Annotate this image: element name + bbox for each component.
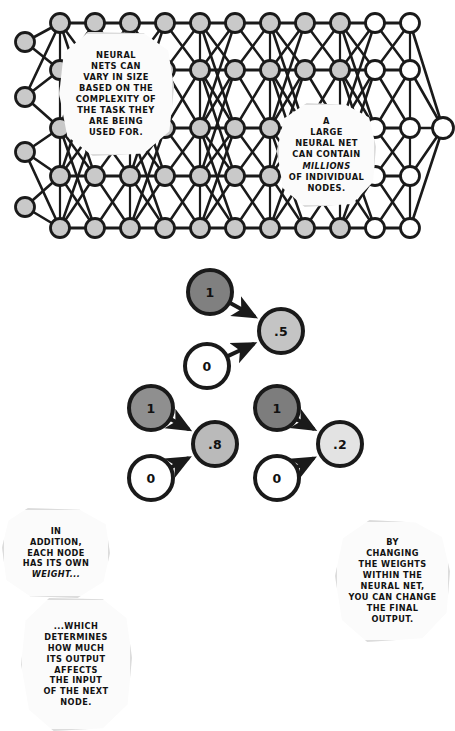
callout-millions-of-nodes: ALARGENEURAL NETCAN CONTAINMILLIONSOF IN… [277, 103, 376, 207]
callout-network-size-text: NEURALNETS CANVARY IN SIZEBASED ON THECO… [73, 50, 159, 139]
weight-arrow [230, 303, 254, 316]
network-node [51, 167, 70, 186]
network-node [296, 219, 315, 238]
network-node [261, 61, 280, 80]
callout-each-node-weight-text: INADDITION,EACH NODEHAS ITS OWNWEIGHT... [20, 526, 93, 581]
network-node [226, 61, 245, 80]
network-node [191, 219, 210, 238]
network-node [86, 14, 105, 33]
network-node [86, 219, 105, 238]
network-node [401, 61, 420, 80]
weight-node-input [129, 456, 173, 500]
weight-node-input [185, 344, 229, 388]
weight-arrow [297, 459, 312, 467]
network-node [366, 61, 385, 80]
network-node [401, 219, 420, 238]
network-node [296, 14, 315, 33]
network-node [156, 14, 175, 33]
network-node [433, 118, 454, 139]
weight-node-output [259, 309, 303, 353]
network-node [261, 14, 280, 33]
weight-node-input [129, 386, 173, 430]
callout-millions-of-nodes-text: ALARGENEURAL NETCAN CONTAINMILLIONSOF IN… [286, 116, 367, 194]
callout-which-determines: ...WHICHDETERMINESHOW MUCHITS OUTPUTAFFE… [20, 598, 132, 731]
network-node [331, 14, 350, 33]
network-node [16, 198, 35, 217]
network-node [51, 14, 70, 33]
network-node [296, 61, 315, 80]
weight-arrow [228, 344, 253, 356]
network-node [226, 14, 245, 33]
network-node [51, 219, 70, 238]
weights-diagram-panel: 10.510.810.2 INADDITION,EACH NODEHAS ITS… [0, 250, 455, 509]
network-node [366, 219, 385, 238]
network-node [366, 14, 385, 33]
network-diagram-panel: NEURALNETS CANVARY IN SIZEBASED ON THECO… [0, 0, 455, 250]
network-node [226, 167, 245, 186]
weight-arrow [171, 419, 188, 429]
callout-each-node-weight: INADDITION,EACH NODEHAS ITS OWNWEIGHT... [2, 508, 110, 598]
network-node [401, 14, 420, 33]
weight-node-input [188, 270, 232, 314]
network-node [401, 167, 420, 186]
weight-node-input [255, 386, 299, 430]
weights-graph [0, 250, 455, 509]
callout-which-determines-text: ...WHICHDETERMINESHOW MUCHITS OUTPUTAFFE… [40, 621, 111, 709]
network-node [261, 119, 280, 138]
network-node [191, 14, 210, 33]
network-node [16, 88, 35, 107]
network-node [226, 119, 245, 138]
network-node [121, 14, 140, 33]
network-node [156, 219, 175, 238]
network-node [226, 219, 245, 238]
callout-network-size: NEURALNETS CANVARY IN SIZEBASED ON THECO… [58, 32, 174, 156]
weight-nodes [129, 270, 362, 500]
network-node [16, 33, 35, 52]
weight-node-output [318, 422, 362, 466]
network-node [191, 61, 210, 80]
network-node [121, 219, 140, 238]
network-node [261, 167, 280, 186]
network-node [156, 167, 175, 186]
network-node [331, 61, 350, 80]
network-node [401, 119, 420, 138]
weight-arrow [171, 459, 187, 468]
callout-changing-weights-text: BYCHANGINGTHE WEIGHTSWITHIN THENEURAL NE… [345, 537, 439, 625]
callout-changing-weights: BYCHANGINGTHE WEIGHTSWITHIN THENEURAL NE… [335, 520, 450, 642]
network-node [191, 167, 210, 186]
network-node [16, 143, 35, 162]
network-node [191, 119, 210, 138]
weight-node-input [255, 456, 299, 500]
network-node [331, 219, 350, 238]
network-node [261, 219, 280, 238]
network-node [121, 167, 140, 186]
weight-arrow [297, 419, 313, 428]
weight-node-output [193, 422, 237, 466]
network-node [86, 167, 105, 186]
